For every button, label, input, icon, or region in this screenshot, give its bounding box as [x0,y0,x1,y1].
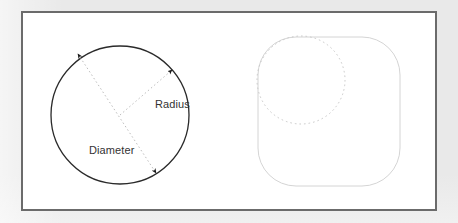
diameter-label: Diameter [89,144,134,156]
figure-frame [21,11,437,211]
figure-page: Radius Diameter [0,0,458,223]
radius-label: Radius [155,98,190,110]
